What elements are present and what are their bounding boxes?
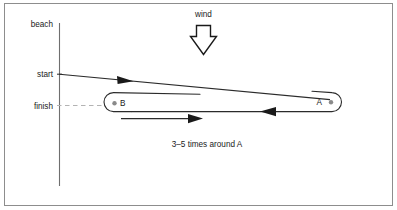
lap-direction-arrowhead — [188, 114, 203, 123]
mark-b-turning-loop — [104, 93, 200, 112]
beach-label: beach — [31, 20, 54, 29]
start-label: start — [37, 70, 54, 79]
diagram-frame: beach start finish wind A B 3–5 times ar… — [0, 0, 397, 210]
mark-b-label: B — [120, 99, 126, 108]
finish-label: finish — [34, 102, 54, 111]
mark-a-label: A — [317, 98, 323, 107]
return-direction-arrowhead — [260, 107, 276, 116]
mark-b-buoy-dot — [112, 101, 116, 105]
mark-a-buoy-dot — [329, 100, 333, 104]
wind-direction-arrow-icon — [191, 26, 217, 55]
outbound-direction-arrowhead — [117, 76, 134, 84]
laps-caption: 3–5 times around A — [172, 140, 243, 149]
outbound-course-leg — [60, 74, 331, 99]
wind-label: wind — [194, 10, 212, 19]
diagram-canvas: beach start finish wind A B 3–5 times ar… — [0, 0, 397, 210]
